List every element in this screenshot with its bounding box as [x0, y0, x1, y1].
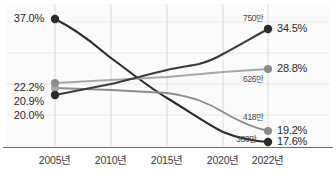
marker-left-20-9: [51, 79, 59, 87]
marker-right-34-5: [264, 25, 272, 33]
value-label-626: 626만: [218, 72, 264, 84]
left-label-20-0: 20.0%: [0, 109, 44, 121]
x-tick-2005: 2005년: [25, 152, 85, 167]
right-label-28-8: 28.8%: [277, 62, 307, 74]
x-tick-2022: 2022년: [238, 152, 298, 167]
left-label-20-9: 20.9%: [0, 95, 44, 107]
marker-left-37: [51, 15, 59, 23]
line-chart: 37.0% 22.2% 20.9% 20.0% 34.5% 28.8% 19.2…: [0, 0, 336, 182]
marker-right-28-8: [264, 65, 272, 73]
right-label-34-5: 34.5%: [277, 22, 307, 34]
x-tick-2010: 2010년: [81, 152, 141, 167]
marker-right-19-2: [264, 127, 272, 135]
value-label-750: 750만: [218, 11, 264, 23]
marker-right-17-6: [264, 138, 272, 146]
value-label-418: 418만: [218, 110, 264, 122]
x-tick-2015: 2015년: [137, 152, 197, 167]
marker-left-20-0: [51, 91, 59, 99]
value-label-383: 383만: [211, 132, 257, 144]
left-label-22: 22.2%: [0, 81, 44, 93]
right-label-17-6: 17.6%: [277, 135, 307, 147]
left-label-37: 37.0%: [0, 12, 44, 24]
